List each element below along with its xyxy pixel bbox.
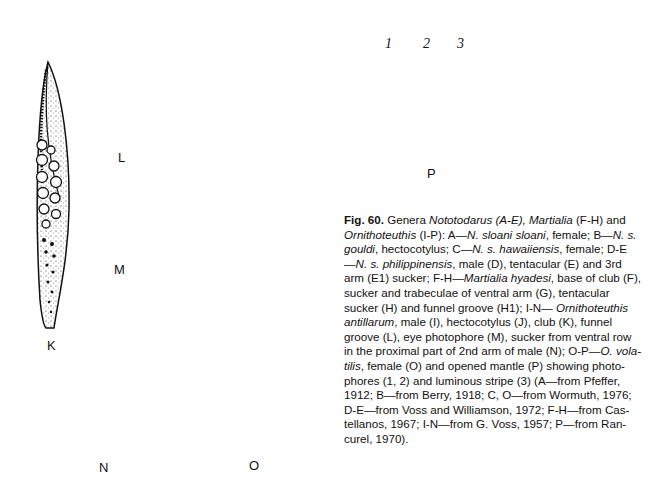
callout-3: 3 xyxy=(457,36,464,52)
panel-label-p: P xyxy=(427,166,436,181)
panel-label-l: L xyxy=(118,150,125,165)
panel-label-m: M xyxy=(114,262,125,277)
caption-line: gouldi, hectocotylus; C—N. s. hawaiiensi… xyxy=(344,242,644,257)
caption-line: D-E—from Voss and Williamson, 1972; F-H—… xyxy=(344,403,644,418)
panel-k-club-drawing xyxy=(37,62,70,328)
caption-line: curel, 1970). xyxy=(344,432,644,447)
caption-line: in the proximal part of 2nd arm of male … xyxy=(344,344,644,359)
caption-line: —N. s. philippinensis, male (D), tentacu… xyxy=(344,257,644,272)
caption-line: phores (1, 2) and luminous stripe (3) (A… xyxy=(344,374,644,389)
panel-label-k: K xyxy=(47,338,56,353)
caption-line: sucker and trabeculae of ventral arm (G)… xyxy=(344,286,644,301)
caption-line: antillarum, male (I), hectocotylus (J), … xyxy=(344,315,644,330)
caption-line: sucker (H) and funnel groove (H1); I-N— … xyxy=(344,301,644,316)
panel-label-n: N xyxy=(99,460,108,475)
caption-line: arm (E1) sucker; F-H—Martialia hyadesi, … xyxy=(344,271,644,286)
caption-line: tilis, female (O) and opened mantle (P) … xyxy=(344,359,644,374)
panel-label-o: O xyxy=(249,458,259,473)
caption-line: 1912; B—from Berry, 1918; C, O—from Worm… xyxy=(344,388,644,403)
callout-2: 2 xyxy=(423,36,430,52)
callout-1: 1 xyxy=(385,36,392,52)
figure-caption: Fig. 60. Genera Nototodarus (A-E), Marti… xyxy=(344,213,644,447)
caption-line: groove (L), eye photophore (M), sucker f… xyxy=(344,330,644,345)
caption-line: Ornithoteuthis (I-P): A—N. sloani sloani… xyxy=(344,228,644,243)
caption-line: Fig. 60. Genera Nototodarus (A-E), Marti… xyxy=(344,213,644,228)
caption-line: tellanos, 1967; I-N—from G. Voss, 1957; … xyxy=(344,417,644,432)
